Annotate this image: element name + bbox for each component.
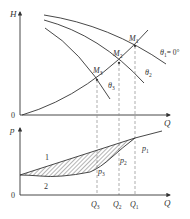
label-curve-1: 1 — [45, 153, 49, 162]
label-theta2: θ2 — [145, 68, 152, 78]
pump-curve-diagram: H 0 Q M1 M2 M3 θ1= 0° θ2 θ3 p 0 Q — [0, 0, 190, 219]
h-axis-label: H — [9, 9, 17, 19]
curve-theta3 — [45, 28, 110, 99]
label-p2: p2 — [119, 156, 127, 166]
label-m1: M1 — [128, 34, 139, 44]
lower-q-axis-label: Q — [164, 198, 171, 208]
label-p3: p3 — [97, 167, 105, 177]
label-curve-2: 2 — [44, 182, 48, 191]
label-q2: Q2 — [113, 200, 122, 210]
p-axis-label: p — [9, 125, 15, 135]
upper-q-axis-label: Q — [164, 118, 171, 128]
upper-origin-label: 0 — [11, 111, 15, 120]
label-q1: Q1 — [130, 200, 139, 210]
label-m2: M2 — [112, 49, 123, 59]
label-m3: M3 — [92, 66, 103, 76]
label-q3: Q3 — [91, 200, 100, 210]
label-theta1: θ1= 0° — [160, 48, 180, 58]
lower-origin-label: 0 — [11, 191, 15, 200]
upper-plot: H 0 Q M1 M2 M3 θ1= 0° θ2 θ3 — [9, 9, 180, 128]
lower-plot: p 0 Q 1 2 p1 p2 p3 Q3 Q2 Q1 — [9, 125, 171, 210]
label-theta3: θ3 — [108, 81, 115, 91]
curve-theta1 — [44, 15, 166, 64]
label-p1: p1 — [141, 144, 149, 154]
